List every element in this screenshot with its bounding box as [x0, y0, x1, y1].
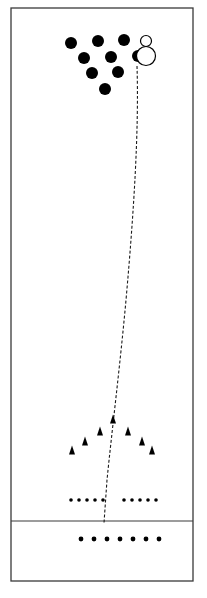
- filled-circle-marker: [99, 83, 111, 95]
- small-dot-marker: [105, 537, 110, 542]
- filled-circle-marker: [86, 67, 98, 79]
- large-open-circle: [137, 47, 156, 66]
- small-dot-marker: [138, 498, 142, 502]
- small-dot-marker: [85, 498, 89, 502]
- small-dot-marker: [157, 537, 162, 542]
- small-dot-marker: [92, 537, 97, 542]
- small-dot-marker: [144, 537, 149, 542]
- small-dot-marker: [118, 537, 123, 542]
- filled-circle-marker: [105, 51, 117, 63]
- filled-circle-marker: [78, 52, 90, 64]
- small-dot-marker: [146, 498, 150, 502]
- small-dot-marker: [69, 498, 73, 502]
- small-dot-marker: [93, 498, 97, 502]
- filled-circle-marker: [112, 66, 124, 78]
- trajectory-figure-svg: [0, 0, 207, 598]
- filled-circle-marker: [118, 34, 130, 46]
- small-dot-marker: [130, 498, 134, 502]
- small-dot-marker: [122, 498, 126, 502]
- small-dot-marker: [77, 498, 81, 502]
- small-dot-marker: [101, 498, 105, 502]
- small-dot-marker: [131, 537, 136, 542]
- small-dot-marker: [154, 498, 158, 502]
- small-open-circle: [141, 36, 152, 47]
- small-dot-marker: [79, 537, 84, 542]
- filled-circle-marker: [65, 37, 77, 49]
- filled-circle-marker: [92, 35, 104, 47]
- figure-root: [0, 0, 207, 598]
